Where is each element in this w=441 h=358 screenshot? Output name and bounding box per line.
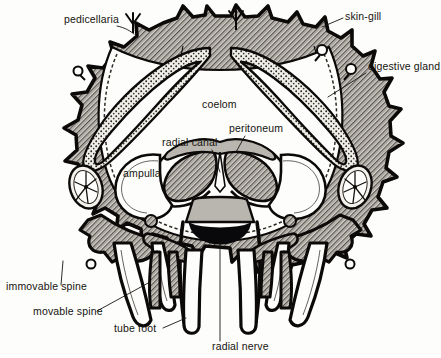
tube-foot-central-left (184, 250, 202, 333)
label-tube-foot: tube foot (114, 322, 156, 334)
label-ampulla: ampulla (123, 167, 161, 179)
ambulacral-ridge (186, 197, 254, 222)
label-peritoneum: peritoneum (229, 122, 283, 134)
tube-foot-central-right (238, 250, 256, 333)
label-digestive-gland: digestive gland (368, 60, 440, 72)
pedicellaria-lower-left (87, 260, 96, 269)
movable-spine-left-2 (169, 252, 180, 297)
label-skin-gill: skin-gill (345, 10, 381, 22)
label-radial-nerve: radial nerve (212, 340, 269, 352)
label-movable-spine: movable spine (33, 305, 103, 317)
label-coelom: coelom (202, 98, 237, 110)
movable-spine-right (281, 252, 292, 308)
diagram-canvas: pedicellaria skin-gill digestive gland c… (0, 0, 441, 358)
label-immovable-spine: immovable spine (6, 280, 87, 292)
pedicellaria-lower-right (346, 260, 355, 269)
ossicle-nodule-right (284, 215, 296, 227)
label-radial-canal: radial canal (162, 136, 218, 148)
label-pedicellaria: pedicellaria (64, 13, 119, 25)
movable-spine-right-2 (261, 252, 272, 297)
movable-spine-left (149, 252, 160, 308)
starfish-cross-section-figure: pedicellaria skin-gill digestive gland c… (0, 0, 441, 358)
ossicle-nodule-left (145, 215, 157, 227)
